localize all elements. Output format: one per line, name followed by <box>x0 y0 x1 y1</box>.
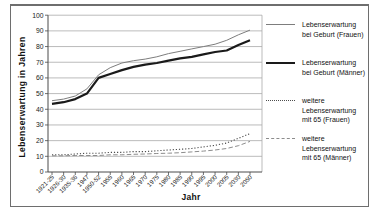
x-tick-label: 2005 <box>215 173 230 188</box>
y-tick-label: 100 <box>32 12 44 19</box>
x-tick-label: 1990 <box>180 173 195 188</box>
legend-label-maenner-65: weitere Lebenserwartung mit 65 (Männer) <box>302 134 356 163</box>
y-tick-label: 40 <box>36 106 44 113</box>
y-axis-title: Lebenserwartung in Jahren <box>17 37 27 158</box>
legend-label-maenner-geburt: Lebenserwartung bei Geburt (Männer) <box>302 58 365 77</box>
x-axis-title: Jahr <box>181 192 200 202</box>
legend-item-frauen-geburt: Lebenserwartung bei Geburt (Frauen) <box>266 20 363 39</box>
x-tick-label: 1955 <box>99 173 114 188</box>
legend-item-maenner-geburt: Lebenserwartung bei Geburt (Männer) <box>266 58 365 77</box>
y-tick-label: 80 <box>36 43 44 50</box>
y-tick-label: 30 <box>36 121 44 128</box>
y-tick-label: 10 <box>36 153 44 160</box>
legend-line-sample-maenner-geburt <box>266 62 295 64</box>
y-tick-label: 70 <box>36 59 44 66</box>
y-tick-label: 60 <box>36 74 44 81</box>
screenshot-root: 01020304050607080901001921-251926-301935… <box>0 0 379 217</box>
legend-line-sample-frauen-geburt <box>266 24 295 25</box>
legend-item-frauen-65: weitere Lebenserwartung mit 65 (Frauen) <box>266 96 356 125</box>
x-tick-label: 1960 <box>110 173 125 188</box>
series-line-maenner-65 <box>52 141 250 155</box>
x-tick-label: 1995 <box>192 173 207 188</box>
x-tick-label: 1965 <box>122 173 137 188</box>
series-line-frauen-65 <box>52 134 250 155</box>
tick-labels: 01020304050607080901001921-251926-301935… <box>32 12 253 195</box>
series-lines <box>52 30 250 156</box>
x-tick-label: 2050 <box>239 173 254 188</box>
x-tick-label: 2030 <box>227 173 242 188</box>
legend-line-sample-maenner-65 <box>266 138 295 139</box>
series-line-maenner-geburt <box>52 40 250 104</box>
x-tick-label: 1970 <box>134 173 149 188</box>
legend-label-frauen-geburt: Lebenserwartung bei Geburt (Frauen) <box>302 20 363 39</box>
y-tick-label: 20 <box>36 137 44 144</box>
x-tick-label: 1980 <box>157 173 172 188</box>
x-tick-label: 2000 <box>204 173 219 188</box>
y-tick-label: 0 <box>40 168 44 175</box>
y-tick-label: 90 <box>36 27 44 34</box>
legend-line-sample-frauen-65 <box>266 100 295 101</box>
legend-label-frauen-65: weitere Lebenserwartung mit 65 (Frauen) <box>302 96 356 125</box>
x-tick-label: 1975 <box>145 173 160 188</box>
legend-item-maenner-65: weitere Lebenserwartung mit 65 (Männer) <box>266 134 356 163</box>
y-tick-label: 50 <box>36 90 44 97</box>
x-tick-label: 1985 <box>169 173 184 188</box>
series-line-frauen-geburt <box>52 30 250 101</box>
